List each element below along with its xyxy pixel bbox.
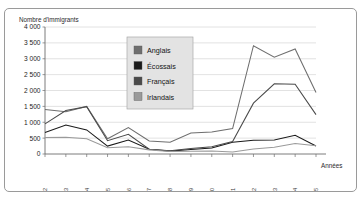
x-tick-label: 1879-80 — [209, 188, 215, 191]
x-tick-label: 1881-82 — [251, 188, 257, 191]
x-axis — [45, 154, 326, 157]
x-tick-label: 1882-83 — [272, 188, 278, 191]
legend-label-anglais: Anglais — [147, 46, 171, 55]
y-tick-label: 3 000 — [24, 55, 41, 62]
chart-legend: AnglaisÉcossaisFrançaisIrlandais — [127, 37, 193, 109]
y-tick-label: 2 500 — [24, 71, 41, 78]
y-axis — [43, 27, 46, 154]
x-tick-labels: 1871-721872-731873-741874-751875-761876-… — [42, 188, 319, 191]
legend-swatch-français — [134, 77, 142, 85]
y-tick-label: 4 000 — [24, 23, 41, 30]
legend-label-français: Français — [147, 77, 175, 86]
legend-swatch-écossais — [134, 62, 142, 70]
legend-swatch-irlandais — [134, 93, 142, 101]
x-tick-label: 1883-84 — [292, 188, 298, 191]
y-axis-title: Nombre d'immigrants — [19, 16, 79, 24]
y-tick-label: 2 000 — [24, 87, 41, 94]
y-tick-labels: 05001 0001 5002 0002 5003 0003 5004 000 — [24, 23, 41, 157]
y-tick-label: 1 500 — [24, 103, 41, 110]
x-tick-label: 1874-75 — [105, 188, 111, 191]
x-tick-label: 1877-78 — [167, 188, 173, 191]
x-tick-label: 1880-81 — [230, 188, 236, 191]
x-tick-label: 1873-74 — [84, 188, 90, 191]
x-tick-label: 1871-72 — [42, 188, 48, 191]
x-tick-label: 1878-79 — [188, 188, 194, 191]
x-tick-label: 1876-77 — [146, 188, 152, 191]
legend-label-irlandais: Irlandais — [147, 93, 175, 102]
immigration-line-chart: 05001 0001 5002 0002 5003 0003 5004 000 … — [5, 9, 356, 191]
y-tick-label: 3 500 — [24, 39, 41, 46]
chart-figure: 05001 0001 5002 0002 5003 0003 5004 000 … — [4, 8, 357, 192]
x-axis-title: Années — [321, 162, 342, 169]
y-tick-label: 1 000 — [24, 119, 41, 126]
y-tick-label: 0 — [37, 150, 41, 157]
y-tick-label: 500 — [29, 135, 40, 142]
x-tick-label: 1875-76 — [126, 188, 132, 191]
x-tick-label: 1884-85 — [313, 188, 319, 191]
legend-label-écossais: Écossais — [147, 62, 176, 71]
legend-swatch-anglais — [134, 46, 142, 54]
x-tick-label: 1872-73 — [63, 188, 69, 191]
